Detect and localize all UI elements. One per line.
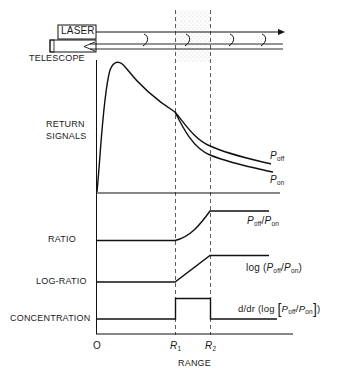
conc-post: ) bbox=[317, 303, 320, 314]
conc-sub1: off bbox=[288, 308, 296, 315]
telescope-body bbox=[50, 40, 96, 52]
p-on-sub: on bbox=[277, 179, 285, 186]
return-signals-label: RETURN SIGNALS bbox=[46, 118, 86, 142]
log-ratio-pre: log ( bbox=[246, 262, 266, 273]
log-ratio-formula: log (Poff/Pon) bbox=[246, 262, 302, 274]
telescope-lens bbox=[50, 40, 54, 52]
log-ratio-p2: P bbox=[284, 262, 291, 273]
p-off-label: Poff bbox=[270, 150, 285, 162]
ratio-curve bbox=[96, 211, 269, 241]
log-ratio-sub2: on bbox=[291, 267, 299, 274]
p-on-base: P bbox=[270, 174, 277, 185]
laser-label: LASER bbox=[61, 25, 95, 36]
tick-r2-sub: 2 bbox=[212, 345, 216, 352]
return-curve-common bbox=[97, 62, 175, 192]
p-on-curve bbox=[175, 112, 273, 172]
log-ratio-label: LOG-RATIO bbox=[36, 276, 87, 286]
tick-origin: O bbox=[93, 340, 101, 351]
return-signals-line2: SIGNALS bbox=[46, 130, 86, 142]
tick-r1-sub: 1 bbox=[177, 345, 181, 352]
ratio-sub2: on bbox=[271, 220, 279, 227]
p-off-base: P bbox=[270, 150, 277, 161]
conc-sub2: on bbox=[305, 308, 313, 315]
telescope-label: TELESCOPE bbox=[29, 53, 85, 63]
concentration-formula: d/dr (log [Poff/Pon]) bbox=[238, 301, 320, 317]
tick-r2: R2 bbox=[205, 340, 216, 352]
p-on-label: Pon bbox=[270, 174, 285, 186]
absorbing-region bbox=[175, 10, 210, 62]
conc-pre: d/dr (log bbox=[238, 303, 278, 314]
ratio-label: RATIO bbox=[48, 234, 76, 244]
ratio-sub1: off bbox=[254, 220, 262, 227]
ratio-formula: Poff/Pon bbox=[247, 215, 279, 227]
tick-r1: R1 bbox=[170, 340, 181, 352]
x-axis-title: RANGE bbox=[178, 358, 211, 368]
log-ratio-post: ) bbox=[299, 262, 303, 273]
ratio-p1: P bbox=[247, 215, 254, 226]
arrow-right-icon bbox=[278, 29, 285, 35]
tick-origin-label: O bbox=[93, 340, 101, 351]
log-ratio-curve bbox=[96, 256, 269, 283]
p-off-sub: off bbox=[277, 155, 285, 162]
concentration-label: CONCENTRATION bbox=[10, 313, 90, 323]
return-signals-line1: RETURN bbox=[46, 118, 86, 130]
log-ratio-sub1: off bbox=[273, 267, 281, 274]
